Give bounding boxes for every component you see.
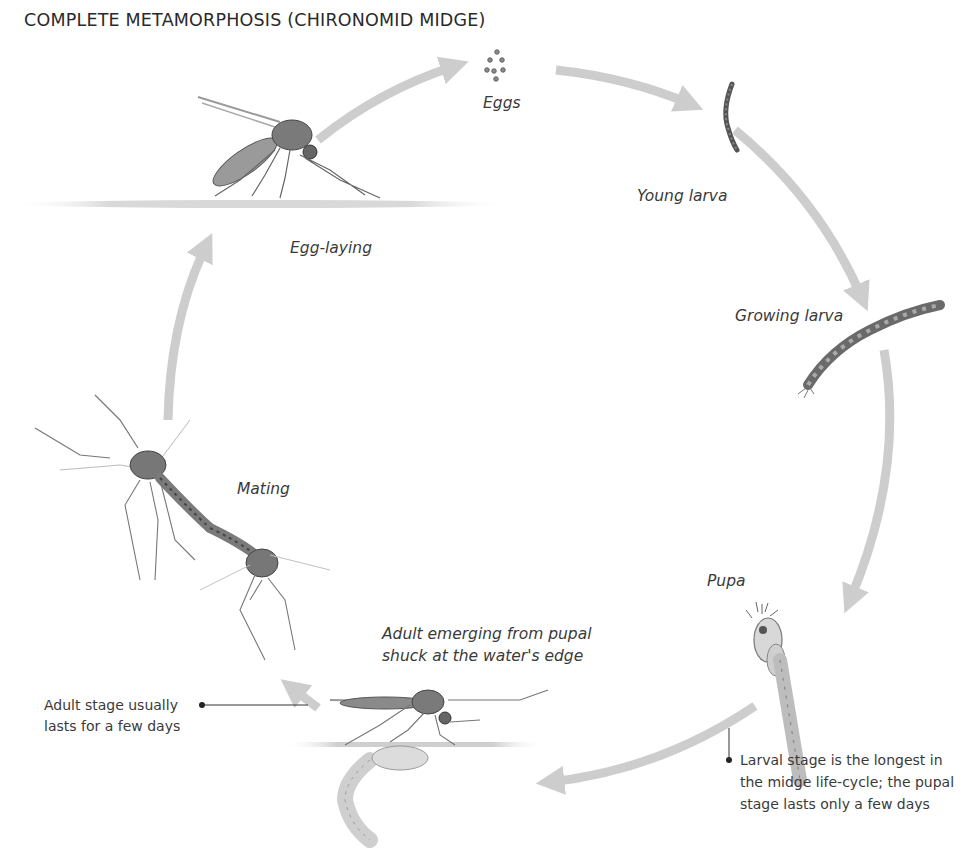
note-larval-line1: Larval stage is the longest in bbox=[740, 750, 943, 770]
note-adult-line1: Adult stage usually bbox=[44, 695, 178, 715]
arrow-pupa-to-emerging bbox=[550, 706, 755, 782]
arrow-growing-larva-to-pupa bbox=[850, 350, 890, 600]
egg-laying-midge-icon bbox=[10, 97, 510, 208]
callout-larval-line bbox=[726, 728, 732, 763]
young-larva-icon bbox=[726, 84, 737, 150]
label-young-larva: Young larva bbox=[637, 186, 728, 206]
note-adult-line2: lasts for a few days bbox=[44, 716, 180, 736]
label-eggs: Eggs bbox=[483, 93, 521, 113]
callout-adult-line bbox=[199, 702, 308, 708]
arrow-egglaying-to-eggs bbox=[318, 66, 455, 140]
arrow-eggs-to-young-larva bbox=[556, 70, 690, 104]
arrow-mating-to-egglaying bbox=[168, 246, 206, 420]
arrow-young-to-growing-larva bbox=[735, 130, 862, 298]
note-larval-line2: the midge life-cycle; the pupal bbox=[740, 772, 954, 792]
label-pupa: Pupa bbox=[707, 571, 746, 591]
eggs-icon bbox=[485, 50, 506, 82]
note-larval-line3: stage lasts only a few days bbox=[740, 794, 930, 814]
label-mating: Mating bbox=[237, 479, 290, 499]
emerging-adult-icon bbox=[285, 690, 548, 840]
mating-midges-icon bbox=[35, 395, 330, 660]
label-growing-larva: Growing larva bbox=[735, 306, 843, 326]
label-egg-laying: Egg-laying bbox=[290, 238, 372, 258]
label-emerging-line2: shuck at the water's edge bbox=[382, 646, 583, 666]
label-emerging-line1: Adult emerging from pupal bbox=[382, 624, 592, 644]
